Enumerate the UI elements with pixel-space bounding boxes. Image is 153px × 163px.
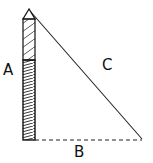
hypotenuse-line <box>30 11 142 139</box>
pole-upper-section <box>23 19 35 60</box>
label-b: B <box>74 143 84 161</box>
pole-lower-section <box>23 60 35 140</box>
triangle-diagram: A C B <box>0 0 153 163</box>
label-c: C <box>102 56 112 74</box>
label-a: A <box>3 61 14 79</box>
